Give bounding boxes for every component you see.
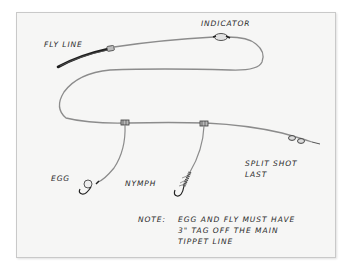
connector-knot [107, 45, 115, 51]
note-line-3: TIPPET LINE [178, 236, 295, 247]
label-egg: EGG [51, 175, 70, 183]
tag-knot-nymph [200, 121, 208, 126]
note-text: EGG AND FLY MUST HAVE 3" TAG OFF THE MAI… [178, 214, 295, 247]
note-line-2: 3" TAG OFF THE MAIN [178, 225, 295, 236]
label-indicator: INDICATOR [201, 20, 250, 28]
label-split-shot: SPLIT SHOT LAST [245, 158, 298, 180]
label-split-shot-line1: SPLIT SHOT [245, 158, 298, 169]
egg-hook-icon [79, 180, 99, 194]
note-prefix: NOTE: [138, 216, 166, 224]
label-split-shot-line2: LAST [245, 169, 298, 180]
note-line-1: EGG AND FLY MUST HAVE [178, 214, 295, 225]
nymph-tag-line [190, 126, 204, 172]
fly-line [58, 49, 108, 67]
egg-tag-line [98, 125, 125, 182]
label-nymph: NYMPH [125, 180, 156, 188]
tag-knot-egg [121, 120, 129, 125]
label-fly-line: FLY LINE [44, 41, 83, 49]
leader-line [59, 37, 320, 144]
nymph-fly-icon [174, 172, 190, 196]
indicator-icon [213, 34, 230, 41]
